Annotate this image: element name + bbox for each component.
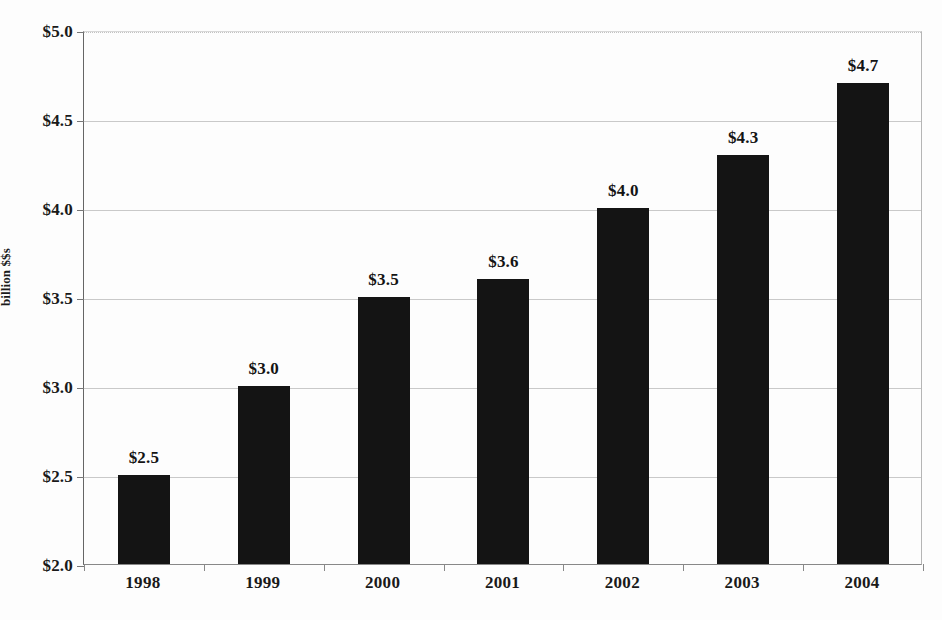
y-axis-tick xyxy=(77,477,84,478)
plot-area: $2.0$2.5$3.0$3.5$4.0$4.5$5.0$2.5$3.0$3.5… xyxy=(83,31,922,565)
y-axis-tick xyxy=(77,566,84,567)
bar-group: $3.0 xyxy=(204,32,324,564)
bar-chart-figure: billion $$s $2.0$2.5$3.0$3.5$4.0$4.5$5.0… xyxy=(0,0,942,620)
bar-group: $4.7 xyxy=(803,32,923,564)
bar-value-label: $3.6 xyxy=(488,252,519,272)
x-axis-tick xyxy=(444,564,445,571)
y-axis-tick xyxy=(77,121,84,122)
y-axis-label: $2.5 xyxy=(42,467,73,487)
bar xyxy=(477,279,529,564)
bar xyxy=(118,475,170,564)
x-axis-label: 1998 xyxy=(83,573,203,593)
y-axis-label: $2.0 xyxy=(42,556,73,576)
y-axis-tick xyxy=(77,299,84,300)
bar xyxy=(358,297,410,564)
bar-group: $4.0 xyxy=(563,32,683,564)
x-axis-tick xyxy=(324,564,325,571)
bar xyxy=(717,155,769,564)
x-axis-label: 2000 xyxy=(323,573,443,593)
bar-value-label: $3.0 xyxy=(248,359,279,379)
bar-group: $2.5 xyxy=(84,32,204,564)
y-axis-tick xyxy=(77,210,84,211)
y-axis-tick xyxy=(77,32,84,33)
x-axis-label: 2003 xyxy=(682,573,802,593)
y-axis-label: $4.5 xyxy=(42,111,73,131)
x-axis-tick xyxy=(803,564,804,571)
bar-value-label: $4.0 xyxy=(608,181,639,201)
bar-value-label: $4.3 xyxy=(728,128,759,148)
y-axis-title: billion $$s xyxy=(0,248,14,306)
x-axis-tick xyxy=(683,564,684,571)
y-axis-label: $3.0 xyxy=(42,378,73,398)
x-axis-tick xyxy=(204,564,205,571)
bar xyxy=(597,208,649,564)
x-axis-tick xyxy=(923,564,924,571)
y-axis-label: $5.0 xyxy=(42,22,73,42)
x-axis-label: 2001 xyxy=(443,573,563,593)
y-axis-label: $3.5 xyxy=(42,289,73,309)
bar xyxy=(238,386,290,564)
bar-value-label: $3.5 xyxy=(368,270,399,290)
bar-group: $3.6 xyxy=(444,32,564,564)
x-axis-label: 1999 xyxy=(203,573,323,593)
bar-value-label: $4.7 xyxy=(848,56,879,76)
y-axis-label: $4.0 xyxy=(42,200,73,220)
x-axis-tick xyxy=(84,564,85,571)
bar-group: $3.5 xyxy=(324,32,444,564)
bar-value-label: $2.5 xyxy=(129,448,160,468)
x-axis-label: 2004 xyxy=(802,573,922,593)
y-axis-tick xyxy=(77,388,84,389)
cropped-chart-title xyxy=(0,0,942,1)
x-axis-tick xyxy=(563,564,564,571)
x-axis-label: 2002 xyxy=(562,573,682,593)
bar xyxy=(837,83,889,564)
bar-group: $4.3 xyxy=(683,32,803,564)
